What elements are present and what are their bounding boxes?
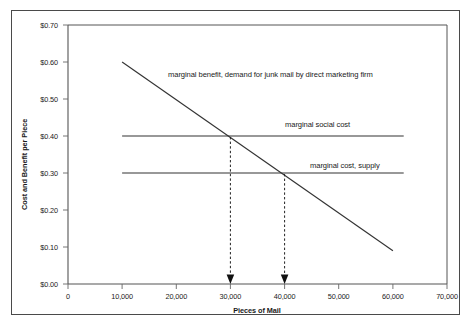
annotation-marginal-benefit-demand: marginal benefit, demand for junk mail b… (168, 71, 373, 79)
y-tick-label-010: $0.10 (24, 244, 58, 251)
annotation-marginal-social-cost: marginal social cost (285, 121, 350, 129)
x-axis-ticks (68, 284, 447, 289)
socially-optimal-quantity-marker (227, 137, 235, 284)
y-tick-label-020: $0.20 (24, 207, 58, 214)
x-tick-label-60000: 60,000 (373, 293, 413, 300)
plot-canvas (0, 0, 470, 328)
x-tick-label-50000: 50,000 (319, 293, 359, 300)
y-tick-label-000: $0.00 (24, 281, 58, 288)
y-tick-label-030: $0.30 (24, 170, 58, 177)
x-tick-label-70000: 70,000 (427, 293, 467, 300)
x-tick-label-0: 0 (48, 293, 88, 300)
market-equilibrium-quantity-marker (281, 174, 289, 284)
x-axis-title: Pieces of Mail (212, 307, 302, 314)
y-axis-title: Cost and Benefit per Piece (21, 119, 28, 210)
x-tick-label-10000: 10,000 (102, 293, 142, 300)
annotation-marginal-cost-supply: marginal cost, supply (310, 162, 380, 170)
x-tick-label-20000: 20,000 (156, 293, 196, 300)
x-tick-label-40000: 40,000 (265, 293, 305, 300)
y-tick-label-060: $0.60 (24, 59, 58, 66)
marginal-benefit-demand-line (122, 62, 393, 251)
y-tick-label-050: $0.50 (24, 96, 58, 103)
y-axis-ticks (63, 25, 68, 284)
chart-figure: $0.70 $0.60 $0.50 $0.40 $0.30 $0.20 $0.1… (0, 0, 470, 328)
y-tick-label-070: $0.70 (24, 22, 58, 29)
x-tick-label-30000: 30,000 (210, 293, 250, 300)
y-tick-label-040: $0.40 (24, 133, 58, 140)
